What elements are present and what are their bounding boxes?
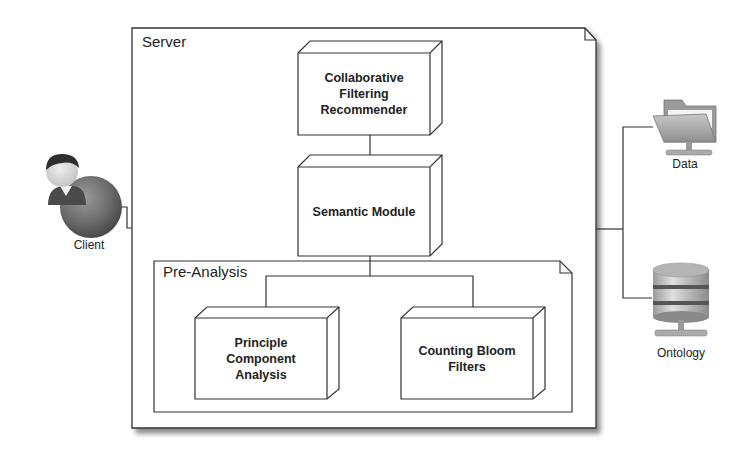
- pre-analysis-frame-title: Pre-Analysis: [163, 263, 247, 280]
- ontology-label: Ontology: [641, 346, 721, 360]
- user-globe-icon[interactable]: [46, 154, 122, 238]
- database-server-icon[interactable]: [653, 263, 709, 336]
- label-line: Semantic Module: [313, 204, 416, 220]
- server-frame-title: Server: [142, 33, 186, 50]
- network-folder-icon[interactable]: [653, 100, 716, 155]
- client-label: Client: [49, 238, 129, 252]
- node-collaborative-filtering-label: Collaborative Filtering Recommender: [298, 53, 430, 135]
- data-label: Data: [645, 157, 725, 171]
- label-line: Analysis: [226, 367, 295, 383]
- node-semantic-module-label: Semantic Module: [298, 167, 430, 256]
- edge-data-ontology: [623, 127, 653, 298]
- label-line: Principle: [226, 335, 295, 351]
- label-line: Collaborative: [321, 70, 408, 86]
- edge-client-server: [122, 207, 132, 228]
- label-line: Filtering: [321, 86, 408, 102]
- label-line: Filters: [418, 359, 515, 375]
- label-line: Recommender: [321, 102, 408, 118]
- label-line: Counting Bloom: [418, 343, 515, 359]
- label-line: Component: [226, 351, 295, 367]
- node-counting-bloom-filters-label: Counting Bloom Filters: [401, 318, 533, 399]
- node-pca-label: Principle Component Analysis: [195, 318, 327, 399]
